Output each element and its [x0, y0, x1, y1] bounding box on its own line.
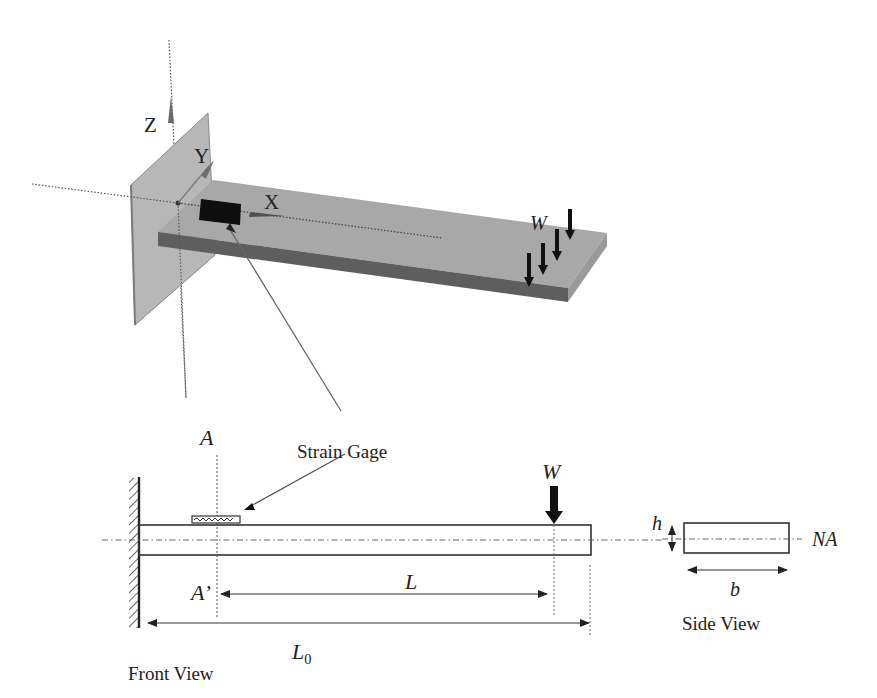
- load-label-front: W: [542, 461, 560, 483]
- z-axis-arrow: [168, 96, 174, 123]
- diagram-graphics: [0, 0, 877, 698]
- dim-L-label: L: [405, 571, 417, 593]
- fixed-wall-hatch: [129, 478, 138, 628]
- strain-gage-label: Strain Gage: [297, 442, 387, 461]
- dim-L0-label: L0: [292, 641, 311, 666]
- section-label-a: A: [200, 427, 213, 449]
- y-axis-label: Y: [194, 146, 209, 167]
- cantilever-beam-diagram: Z Y X W A Strain Gage W A’ L L0 Front Vi…: [0, 0, 877, 698]
- height-label: h: [652, 513, 662, 533]
- neutral-axis-label: NA: [812, 529, 838, 549]
- width-label: b: [730, 579, 740, 599]
- beam-section: [684, 523, 789, 553]
- load-label-3d: W: [530, 213, 547, 233]
- front-view-caption: Front View: [128, 664, 214, 683]
- z-axis-label: Z: [144, 115, 157, 136]
- section-label-a-prime: A’: [191, 582, 211, 604]
- load-arrow-front: [550, 486, 558, 512]
- front-view: [102, 454, 662, 637]
- side-view: [662, 523, 802, 570]
- side-view-caption: Side View: [682, 614, 760, 633]
- x-axis-label: X: [264, 192, 279, 213]
- isometric-view: [32, 40, 607, 411]
